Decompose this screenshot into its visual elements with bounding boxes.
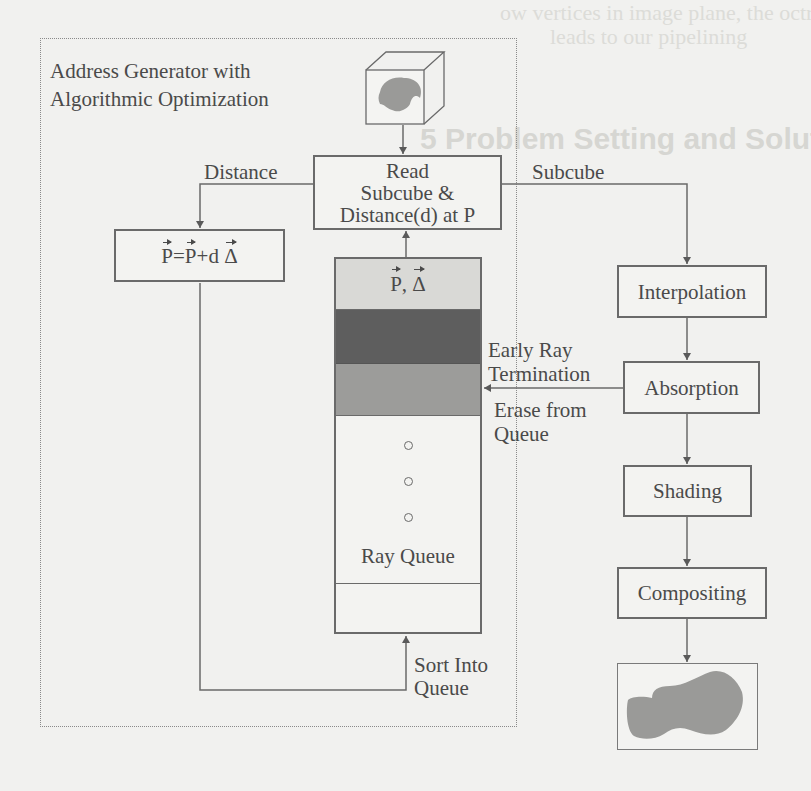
ray-queue-label: Ray Queue [336,544,480,569]
compositing-node[interactable]: Compositing [617,567,767,619]
erase-label-2: Queue [494,423,549,445]
subcube-label: Subcube [532,161,604,183]
read-line-1: Read [386,160,429,182]
interpolation-label: Interpolation [638,281,746,303]
absorption-node[interactable]: Absorption [623,361,760,414]
early-ray-label-2: Termination [488,363,590,385]
rendered-image-icon [618,664,756,748]
p-vector: P [185,245,197,267]
queue-head-entry[interactable]: P, Δ [336,259,480,310]
equals-sign: = [173,245,185,267]
erase-label-1: Erase from [494,399,587,421]
output-image-frame [617,663,758,750]
read-line-3: Distance(d) at P [340,204,475,226]
shading-label: Shading [653,480,722,502]
compositing-label: Compositing [638,582,747,604]
separator: , [402,272,413,297]
early-ray-label-1: Early Ray [488,339,573,361]
ellipsis-dot-icon [404,441,413,450]
distance-label: Distance [204,161,277,183]
volume-cube-icon [358,48,448,128]
position-update-node[interactable]: P=P+d Δ [114,229,285,282]
read-subcube-node[interactable]: Read Subcube & Distance(d) at P [313,155,502,230]
delta-vector: Δ [224,245,238,267]
absorption-label: Absorption [644,377,739,399]
ellipsis-dot-icon [404,513,413,522]
p-vector: P [161,245,173,267]
ellipsis-dot-icon [404,477,413,486]
queue-entry-erased[interactable] [336,364,480,416]
ray-queue: P, Δ Ray Queue [334,257,482,634]
read-line-2: Subcube & [361,182,455,204]
plus-d-text: +d [197,245,225,267]
sort-into-queue-label-1: Sort Into [414,654,488,676]
interpolation-node[interactable]: Interpolation [617,265,767,318]
sort-into-queue-label-2: Queue [414,677,469,699]
queue-entry-terminated[interactable] [336,310,480,364]
shading-node[interactable]: Shading [623,465,752,517]
queue-tail-divider [336,583,480,584]
p-vector: P [390,272,402,297]
delta-vector: Δ [412,272,426,297]
